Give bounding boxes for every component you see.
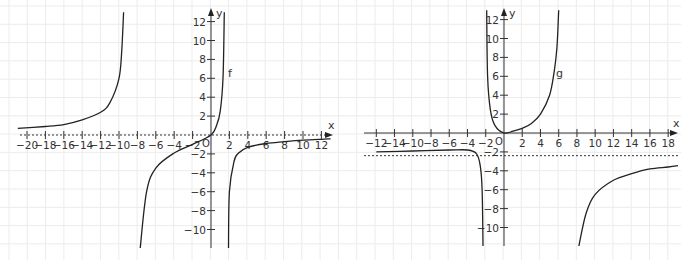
x-tick-label: 14 — [625, 137, 639, 149]
figure: xyO−20−18−16−14−12−10−8−6−4−224681012121… — [0, 0, 681, 260]
y-tick-label: −8 — [484, 203, 499, 215]
y-tick-label: −6 — [191, 186, 207, 198]
x-tick-label: 2 — [226, 139, 233, 151]
y-tick-label: 4 — [199, 91, 206, 103]
y-tick-label: 10 — [193, 35, 206, 47]
x-tick-label: 12 — [607, 137, 620, 149]
y-tick-label: −6 — [484, 184, 500, 196]
function-label: g — [556, 67, 563, 80]
function-curve — [229, 139, 331, 249]
x-tick-label: 6 — [263, 139, 270, 151]
y-tick-label: 12 — [193, 16, 206, 28]
y-tick-label: −4 — [484, 165, 500, 177]
y-axis-label: y — [509, 7, 516, 20]
y-tick-label: −4 — [191, 167, 207, 179]
x-tick-label: 16 — [643, 137, 657, 149]
x-axis-arrow-icon — [670, 130, 678, 136]
y-tick-label: 2 — [492, 108, 499, 120]
x-tick-label: 2 — [519, 137, 526, 149]
function-curve — [18, 12, 124, 128]
y-tick-label: 12 — [486, 14, 499, 26]
y-tick-label: 4 — [492, 89, 499, 101]
x-tick-label: −8 — [130, 139, 145, 151]
function-curve — [140, 12, 224, 248]
x-axis-arrow-icon — [325, 132, 333, 138]
y-tick-label: 2 — [199, 110, 206, 122]
y-tick-label: −8 — [191, 205, 206, 217]
x-axis-label: x — [673, 117, 680, 130]
y-tick-label: −10 — [184, 224, 206, 236]
y-axis-label: y — [216, 7, 223, 20]
x-tick-label: −10 — [108, 139, 130, 151]
x-tick-label: −4 — [460, 137, 476, 149]
x-tick-label: 18 — [661, 137, 674, 149]
function-label: f — [228, 67, 233, 80]
x-tick-label: −6 — [148, 139, 164, 151]
curves — [376, 10, 681, 246]
x-tick-label: 8 — [574, 137, 581, 149]
y-tick-label: 8 — [492, 51, 499, 63]
y-axis-arrow-icon — [501, 8, 507, 16]
x-tick-label: 12 — [315, 139, 328, 151]
x-tick-label: −6 — [442, 137, 458, 149]
graphs-canvas: xyO−20−18−16−14−12−10−8−6−4−224681012121… — [0, 0, 681, 260]
x-axis-label: x — [328, 119, 335, 132]
y-axis-arrow-icon — [208, 8, 214, 16]
x-tick-label: −8 — [423, 137, 438, 149]
grid — [0, 0, 681, 260]
x-tick-label: −10 — [402, 137, 424, 149]
x-tick-label: 6 — [555, 137, 562, 149]
y-tick-label: 6 — [199, 72, 206, 84]
x-tick-label: 10 — [589, 137, 602, 149]
y-tick-label: −10 — [477, 222, 499, 234]
y-tick-label: −2 — [191, 148, 206, 160]
x-tick-label: 4 — [537, 137, 544, 149]
y-tick-label: 6 — [492, 70, 499, 82]
y-tick-label: 8 — [199, 53, 206, 65]
x-tick-label: 4 — [244, 139, 251, 151]
